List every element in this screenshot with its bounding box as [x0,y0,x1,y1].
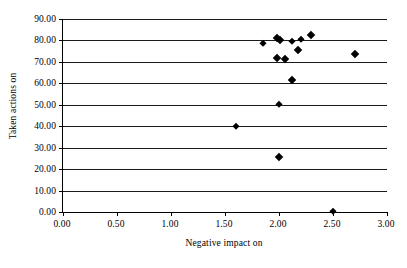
x-axis-tick-label: 2.50 [323,219,340,229]
y-axis-tick-label: 0.00 [39,207,56,217]
y-axis-tick-label: 50.00 [34,100,56,110]
x-axis-tick [387,212,388,216]
x-axis-title: Negative impact on [62,238,386,248]
data-point [330,208,336,214]
gridline-y [63,169,387,170]
gridline-y [63,83,387,84]
data-point [273,53,281,61]
y-axis-tick-label: 70.00 [34,57,56,67]
data-point [289,38,295,44]
x-axis-tick [279,212,280,216]
y-axis-tick-label: 20.00 [34,164,56,174]
data-point [307,31,315,39]
y-axis-tick-labels: 0.0010.0020.0030.0040.0050.0060.0070.008… [0,19,56,212]
data-point [294,46,302,54]
scatter-chart: Taken actions on 0.0010.0020.0030.0040.0… [0,0,407,268]
y-axis-tick-label: 90.00 [34,14,56,24]
y-axis-tick [59,19,63,20]
y-axis-tick [59,83,63,84]
x-axis-tick [225,212,226,216]
y-axis-tick-label: 30.00 [34,143,56,153]
x-axis-tick-label: 1.50 [215,219,232,229]
x-axis-tick-label: 0.50 [107,219,124,229]
gridline-y [63,40,387,41]
y-axis-tick [59,169,63,170]
x-axis-tick-label: 0.00 [53,219,70,229]
gridline-y [63,148,387,149]
x-axis-tick-label: 3.00 [377,219,394,229]
y-axis-tick [59,148,63,149]
y-axis-tick [59,105,63,106]
x-axis-tick-label: 1.00 [161,219,178,229]
x-axis-tick-labels: 0.000.501.001.502.002.503.00 [0,219,407,233]
plot-area [62,19,387,213]
data-point [276,100,282,106]
y-axis-tick-label: 40.00 [34,121,56,131]
y-axis-tick-label: 10.00 [34,186,56,196]
y-axis-tick [59,62,63,63]
gridline-y [63,62,387,63]
x-axis-tick-label: 2.00 [269,219,286,229]
x-axis-tick [171,212,172,216]
gridline-y [63,19,387,20]
gridline-y [63,191,387,192]
data-point [275,153,283,161]
data-point [350,50,358,58]
data-point [297,36,303,42]
y-axis-tick-label: 60.00 [34,78,56,88]
x-axis-tick [117,212,118,216]
x-axis-tick [63,212,64,216]
data-point [233,122,239,128]
gridline-y [63,126,387,127]
y-axis-tick [59,126,63,127]
y-axis-tick [59,40,63,41]
y-axis-tick-label: 80.00 [34,35,56,45]
y-axis-tick [59,191,63,192]
gridline-y [63,105,387,106]
